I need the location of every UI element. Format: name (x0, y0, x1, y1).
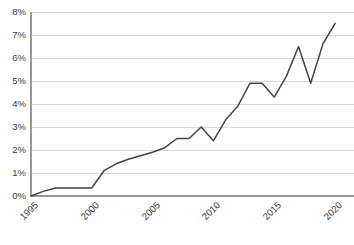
line-chart: 0%1%2%3%4%5%6%7%8% 199520002005201020152… (0, 0, 354, 245)
y-axis-tick-label: 6% (2, 53, 26, 63)
y-axis-tick-label: 2% (2, 145, 26, 155)
y-axis-tick-label: 0% (2, 191, 26, 201)
y-axis-tick-label: 7% (2, 30, 26, 40)
data-line-series (31, 24, 335, 197)
y-axis-tick-label: 1% (2, 168, 26, 178)
y-axis-tick-label: 4% (2, 99, 26, 109)
y-axis-tick-label: 5% (2, 76, 26, 86)
y-axis-tick-label: 3% (2, 122, 26, 132)
y-axis-tick-label: 8% (2, 7, 26, 17)
chart-plot-area (0, 0, 354, 245)
